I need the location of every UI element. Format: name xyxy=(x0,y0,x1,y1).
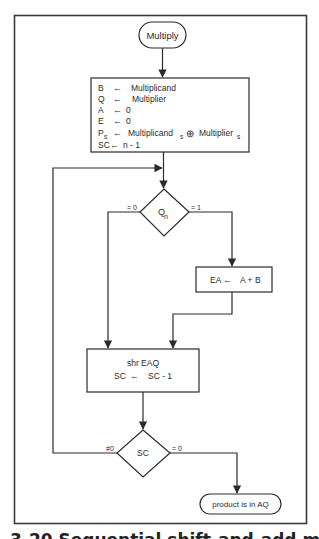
decision-qn-label-sub: n xyxy=(164,213,168,220)
flowchart-canvas: Multiply B ← Multiplicand Q ← Multiplier… xyxy=(0,0,319,539)
assign-arrow-icon: ← xyxy=(130,371,139,381)
start-terminal: Multiply xyxy=(139,22,186,48)
init-line-a-rhs: 0 xyxy=(126,105,131,115)
assign-arrow-icon: ← xyxy=(113,116,122,126)
init-line-ps-rhs-a: Multiplicand xyxy=(128,128,173,138)
qn-branch-one-label: = 1 xyxy=(191,204,201,211)
init-line-e-lhs: E xyxy=(98,116,104,126)
end-terminal-label: product is in AQ xyxy=(212,500,268,509)
assign-arrow-icon: ← xyxy=(223,275,232,285)
init-line-q-lhs: Q xyxy=(98,94,105,104)
add-block-rhs: A + B xyxy=(240,275,261,285)
init-line-e-rhs: 0 xyxy=(126,116,131,126)
shift-block-line2-lhs: SC xyxy=(114,371,126,381)
shift-block: shr EAQ SC ← SC - 1 xyxy=(87,349,199,392)
end-terminal: product is in AQ xyxy=(200,494,281,514)
sc-branch-zero-label: = 0 xyxy=(172,445,182,452)
init-block: B ← Multiplicand Q ← Multiplier A ← 0 E … xyxy=(91,78,249,152)
sc-branch-nonzero-label: #0 xyxy=(106,445,114,452)
add-block: EA ← A + B xyxy=(196,267,272,292)
init-line-a-lhs: A xyxy=(98,105,104,115)
arrow-sc-zero-to-end xyxy=(170,453,237,493)
init-line-ps-rhs-b: Multiplier xyxy=(199,128,233,138)
assign-arrow-icon: ← xyxy=(113,94,122,104)
start-terminal-label: Multiply xyxy=(146,30,178,41)
decision-sc-label: SC xyxy=(137,448,149,458)
shift-block-line1: shr EAQ xyxy=(127,358,160,368)
figure-caption: 3-20 Sequential shift-and-add multiplica… xyxy=(10,530,319,539)
arrow-qn-one-to-add xyxy=(189,212,232,266)
assign-arrow-icon: ← xyxy=(113,105,122,115)
assign-arrow-icon: ← xyxy=(110,140,119,150)
init-line-q-rhs: Multiplier xyxy=(132,94,166,104)
shift-block-line2-rhs: SC - 1 xyxy=(148,371,172,381)
init-line-b-rhs: Multiplicand xyxy=(131,83,176,93)
assign-arrow-icon: ← xyxy=(113,128,122,138)
init-line-sc-lhs: SC xyxy=(98,140,110,150)
qn-branch-zero-label: = 0 xyxy=(127,204,137,211)
xor-icon: ⊕ xyxy=(186,128,194,139)
init-line-b-lhs: B xyxy=(98,83,104,93)
init-line-sc-rhs: n - 1 xyxy=(123,140,140,150)
arrow-add-to-shift xyxy=(173,292,232,348)
assign-arrow-icon: ← xyxy=(113,83,122,93)
add-block-lhs: EA xyxy=(210,275,222,285)
arrow-qn-zero-to-shift xyxy=(108,212,140,348)
